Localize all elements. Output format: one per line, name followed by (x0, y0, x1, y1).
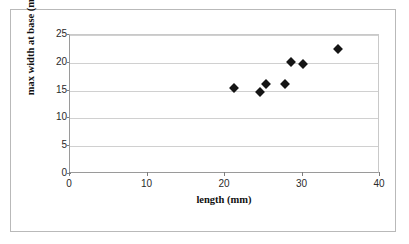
y-tick-label: 0 (45, 168, 67, 178)
gridline-y (70, 91, 378, 92)
y-axis-tick-labels: 0510152025 (41, 34, 67, 173)
plot-area (69, 34, 379, 173)
gridline-y (70, 63, 378, 64)
data-point (261, 79, 271, 89)
y-tick-label: 15 (45, 85, 67, 95)
y-axis-title: max width at base (mm) (24, 0, 38, 111)
data-point (298, 59, 308, 69)
x-axis-tick-labels: 010203040 (69, 176, 379, 192)
y-tick-label: 20 (45, 57, 67, 67)
x-axis-title: length (mm) (69, 194, 379, 205)
x-tick-label: 0 (54, 178, 84, 189)
x-tick-mark (69, 172, 70, 176)
data-point (286, 57, 296, 67)
x-tick-mark (302, 172, 303, 176)
data-point (255, 87, 265, 97)
x-tick-mark (224, 172, 225, 176)
data-point (333, 45, 343, 55)
x-tick-mark (379, 172, 380, 176)
gridline-y (70, 146, 378, 147)
y-tick-label: 25 (45, 29, 67, 39)
chart-figure: max width at base (mm) 0510152025 010203… (10, 9, 396, 232)
x-tick-label: 10 (132, 178, 162, 189)
x-tick-label: 40 (364, 178, 394, 189)
x-tick-mark (147, 172, 148, 176)
data-point (280, 79, 290, 89)
gridline-y (70, 118, 378, 119)
gridline-y (70, 35, 378, 36)
y-tick-label: 5 (45, 140, 67, 150)
x-tick-label: 20 (209, 178, 239, 189)
y-tick-label: 10 (45, 112, 67, 122)
x-tick-label: 30 (287, 178, 317, 189)
